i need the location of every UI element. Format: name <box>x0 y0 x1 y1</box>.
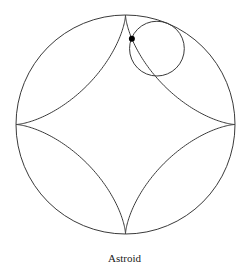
figure-caption: Astroid <box>0 252 249 264</box>
tracing-point <box>129 36 135 42</box>
outer-circle <box>16 15 235 234</box>
astroid-diagram <box>0 0 249 270</box>
rolling-circle <box>130 21 185 76</box>
astroid-curve <box>16 15 235 234</box>
